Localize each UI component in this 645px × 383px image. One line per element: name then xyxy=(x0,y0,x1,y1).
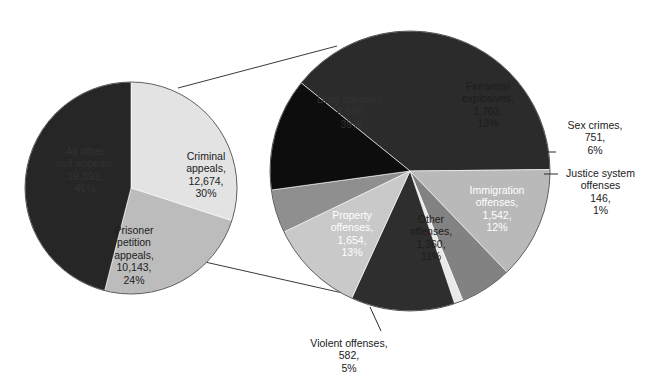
pie-criminal-breakdown xyxy=(270,31,550,311)
pie-chart-figure xyxy=(0,0,645,383)
pie-appeals-overview xyxy=(25,82,237,294)
violent-offenses-leader xyxy=(370,307,381,331)
